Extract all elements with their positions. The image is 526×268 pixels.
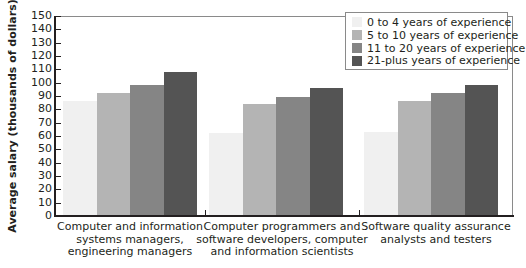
bar	[130, 85, 164, 216]
y-axis-title: Average salary (thousands of dollars)	[4, 16, 20, 216]
y-tick-label: 120	[31, 50, 52, 61]
bar	[97, 93, 131, 216]
category-label-line: Computer programmers and	[192, 221, 372, 234]
legend-item: 5 to 10 years of experience	[352, 29, 507, 42]
y-tick-label: 30	[38, 170, 52, 181]
y-tick	[56, 189, 61, 190]
y-tick-label: 60	[38, 130, 52, 141]
y-tick-label: 100	[31, 77, 52, 88]
y-tick-label: 10	[38, 197, 52, 208]
bar	[398, 101, 432, 216]
legend-item: 11 to 20 years of experience	[352, 42, 507, 55]
y-tick	[56, 109, 61, 110]
category-label: Software quality assuranceanalysts and t…	[346, 221, 526, 246]
y-tick-label: 90	[38, 90, 52, 101]
bar	[364, 132, 398, 216]
y-tick-label: 140	[31, 23, 52, 34]
y-tick	[56, 149, 61, 150]
bar	[243, 104, 277, 216]
bar	[431, 93, 465, 216]
legend-item: 21-plus years of experience	[352, 54, 507, 67]
y-tick	[56, 203, 61, 204]
legend: 0 to 4 years of experience5 to 10 years …	[345, 12, 508, 70]
y-tick-label: 0	[45, 210, 52, 221]
y-tick	[56, 83, 61, 84]
y-tick-label: 70	[38, 117, 52, 128]
y-tick-label: 50	[38, 143, 52, 154]
y-axis-line	[54, 16, 56, 217]
legend-swatch	[352, 43, 362, 53]
category-label: Computer programmers andsoftware develop…	[192, 221, 372, 259]
y-tick-label: 80	[38, 103, 52, 114]
y-tick	[56, 69, 61, 70]
legend-swatch	[352, 30, 362, 40]
bar	[164, 72, 198, 216]
y-tick-label: 110	[31, 63, 52, 74]
bar	[465, 85, 499, 216]
x-axis-line	[54, 215, 514, 217]
bar	[276, 97, 310, 216]
y-tick-label: 130	[31, 37, 52, 48]
y-tick	[56, 29, 61, 30]
y-tick-label: 20	[38, 183, 52, 194]
bar	[209, 133, 243, 216]
salary-bar-chart: Average salary (thousands of dollars) 01…	[0, 0, 526, 268]
y-tick	[56, 96, 61, 97]
legend-label: 0 to 4 years of experience	[367, 16, 511, 29]
legend-label: 5 to 10 years of experience	[367, 29, 518, 42]
category-label-line: analysts and testers	[346, 234, 526, 247]
bar	[63, 101, 97, 216]
y-tick-label: 150	[31, 10, 52, 21]
y-tick	[56, 43, 61, 44]
bar	[310, 88, 344, 216]
legend-label: 21-plus years of experience	[367, 54, 520, 67]
y-tick	[56, 136, 61, 137]
y-tick-label: 40	[38, 157, 52, 168]
legend-label: 11 to 20 years of experience	[367, 42, 525, 55]
y-tick	[56, 16, 61, 17]
category-label-line: Software quality assurance	[346, 221, 526, 234]
category-label-line: and information scientists	[192, 246, 372, 259]
y-tick	[56, 163, 61, 164]
legend-swatch	[352, 56, 362, 66]
legend-swatch	[352, 17, 362, 27]
y-tick	[56, 123, 61, 124]
y-tick	[56, 56, 61, 57]
y-tick	[56, 176, 61, 177]
legend-item: 0 to 4 years of experience	[352, 16, 507, 29]
